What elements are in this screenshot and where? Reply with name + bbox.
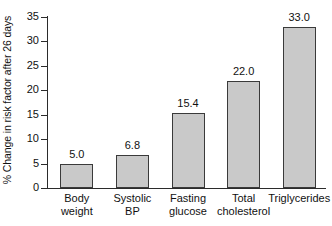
y-axis-tick-label: 20 <box>0 84 39 95</box>
y-axis-tick-label: 25 <box>0 60 39 71</box>
x-axis-label-line1: Systolic <box>113 192 151 204</box>
y-axis-line <box>47 16 48 189</box>
x-axis-label-line1: Body <box>64 192 89 204</box>
x-axis-label: Triglycerides <box>265 192 332 205</box>
y-axis-tick <box>41 90 47 91</box>
y-axis-tick <box>41 164 47 165</box>
y-axis-tick-label: 30 <box>0 35 39 46</box>
bar <box>60 164 93 188</box>
bar <box>116 155 149 188</box>
bar-value-label: 5.0 <box>47 149 107 160</box>
bar <box>283 27 316 188</box>
y-axis-tick-label: 35 <box>0 11 39 22</box>
x-axis-line <box>47 188 326 189</box>
bar <box>227 81 260 188</box>
y-axis-title: % Change in risk factor after 26 days <box>0 0 14 200</box>
bar-value-label: 22.0 <box>214 66 274 77</box>
x-axis-label-line2: cholesterol <box>210 205 278 218</box>
bar <box>172 113 205 188</box>
y-axis-tick <box>41 115 47 116</box>
x-axis-label-line1: Total <box>232 192 255 204</box>
y-axis-tick <box>41 188 47 189</box>
y-axis-tick-label: 15 <box>0 109 39 120</box>
y-axis-tick-label: 10 <box>0 133 39 144</box>
bar-value-label: 15.4 <box>158 98 218 109</box>
bar-chart: % Change in risk factor after 26 days 05… <box>0 0 332 226</box>
y-axis-tick <box>41 41 47 42</box>
x-axis-label-line1: Triglycerides <box>268 192 330 204</box>
y-axis-tick <box>41 139 47 140</box>
y-axis-tick-label: 5 <box>0 158 39 169</box>
bar-value-label: 6.8 <box>102 140 162 151</box>
bar-value-label: 33.0 <box>269 12 329 23</box>
y-axis-tick <box>41 66 47 67</box>
x-axis-label-line1: Fasting <box>170 192 206 204</box>
y-axis-tick <box>41 17 47 18</box>
y-axis-tick-label: 0 <box>0 182 39 193</box>
